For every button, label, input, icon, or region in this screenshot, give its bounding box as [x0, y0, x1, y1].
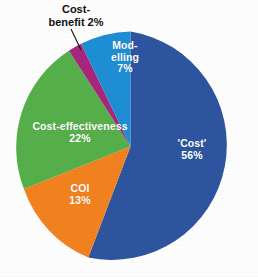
pie-chart-canvas	[0, 0, 258, 277]
pie-label-cost-benefit-name-part1: Cost-	[62, 3, 90, 15]
pie-chart: 'Cost' 56% Cost-effectiveness 22% COI 13…	[0, 0, 258, 277]
pie-label-cost-benefit-name-part2: benefit 2%	[48, 16, 103, 28]
pie-label-cost-benefit: Cost- benefit 2%	[24, 3, 128, 28]
